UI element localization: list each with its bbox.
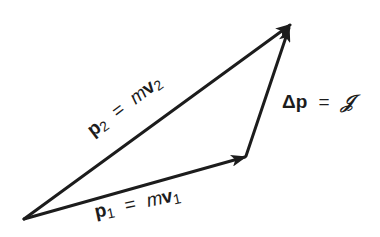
impulse-symbol: 𝒥: [341, 91, 354, 112]
vector-triangle: [0, 0, 380, 237]
delta-p-equals: =: [319, 91, 330, 112]
p1-equals: =: [122, 193, 137, 216]
delta-p-symbol: p: [296, 91, 308, 112]
momentum-vector-diagram: p2 = mv2 p1 = mv1 Δp = 𝒥: [0, 0, 380, 237]
label-delta-p-equation: Δp = 𝒥: [282, 92, 354, 111]
p2-equals: =: [107, 98, 129, 121]
delta-symbol: Δ: [282, 91, 296, 112]
